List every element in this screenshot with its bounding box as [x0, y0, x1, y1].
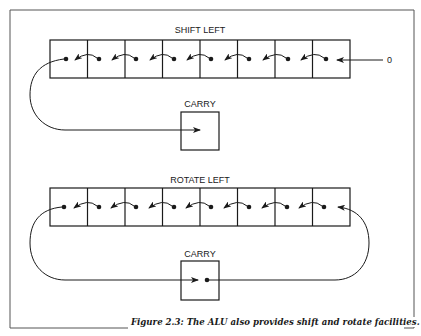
shift-bit-dots	[64, 57, 329, 62]
alu-shift-rotate-diagram: SHIFT LEFT	[0, 0, 421, 336]
rotate-left-title: ROTATE LEFT	[170, 175, 230, 185]
shift-left-title: SHIFT LEFT	[175, 25, 226, 35]
zero-input-label: 0	[387, 55, 392, 65]
rotate-left-section: ROTATE LEFT	[30, 175, 369, 300]
rotate-msb-to-carry-path	[30, 207, 198, 280]
rotate-carry-to-lsb-path	[207, 207, 369, 280]
shift-carry-box	[181, 112, 219, 150]
rotate-register	[50, 188, 350, 226]
shift-carry-label: CARRY	[184, 99, 215, 109]
rotate-carry-dot	[205, 278, 210, 283]
shift-register	[50, 40, 350, 78]
shift-to-carry-path	[30, 59, 200, 130]
rotate-carry-label: CARRY	[184, 249, 215, 259]
rotate-bit-dots	[62, 205, 327, 210]
figure-caption: Figure 2.3: The ALU also provides shift …	[130, 317, 421, 327]
shift-left-section: SHIFT LEFT	[30, 25, 392, 150]
